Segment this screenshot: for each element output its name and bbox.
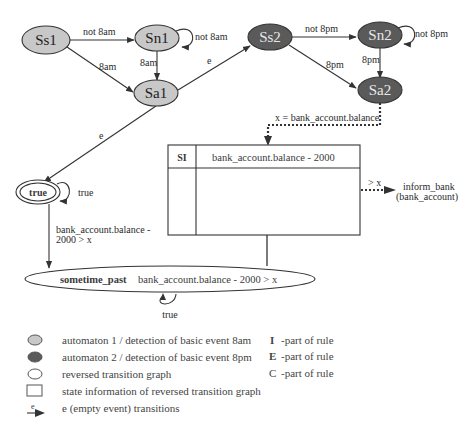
assignment-label: x = bank_account.balance xyxy=(275,112,380,123)
svg-text:automaton 1 / detection of bas: automaton 1 / detection of basic event 8… xyxy=(62,334,252,346)
legend-state-info-icon xyxy=(27,385,42,396)
svg-text:automaton 2 / detection of bas: automaton 2 / detection of basic event 8… xyxy=(62,351,252,363)
node-sometime-past: sometime_past bank_account.balance - 200… xyxy=(25,266,315,320)
edge-ss2-sa2 xyxy=(289,45,356,88)
edge-label-ss1-sa1: 8am xyxy=(99,61,116,72)
svg-text:e (empty event) transitions: e (empty event) transitions xyxy=(62,402,180,415)
legend-item-automaton2: automaton 2 / detection of basic event 8… xyxy=(28,351,252,363)
node-label-sn1: Sn1 xyxy=(145,30,168,46)
edge-label-ss2-sa2: 8pm xyxy=(326,59,344,70)
action-edge: > x inform_bank (bank_account) xyxy=(361,177,458,203)
node-ss1: Ss1 xyxy=(22,26,70,54)
past-node-condition: bank_account.balance - 2000 > x xyxy=(138,274,278,285)
legend-item-reversed: reversed transition graph xyxy=(28,368,172,380)
edge-label-sn2-sa2: 8pm xyxy=(362,54,380,65)
edge-label-sn1-self: not 8am xyxy=(195,31,228,42)
true-self-label: true xyxy=(78,187,94,198)
edge-sa1-ss2 xyxy=(178,46,250,90)
node-label-true: true xyxy=(29,187,47,198)
legend: automaton 1 / detection of basic event 8… xyxy=(27,334,334,417)
svg-text:C: C xyxy=(269,367,276,379)
legend-automaton1-icon xyxy=(28,335,42,345)
svg-text:-part of rule: -part of rule xyxy=(281,350,334,362)
legend-automaton2-icon xyxy=(28,352,42,362)
edge-label-sa1-true: e xyxy=(99,130,104,141)
svg-text:-part of rule: -part of rule xyxy=(281,367,334,379)
node-sn2: Sn2 xyxy=(358,22,402,48)
edge-label-sn1-sa1: 8am xyxy=(140,57,157,68)
node-label-ss2: Ss2 xyxy=(259,29,281,45)
state-info-box: SI bank_account.balance - 2000 xyxy=(168,145,360,235)
svg-text:E: E xyxy=(269,350,276,362)
node-sa1: Sa1 xyxy=(134,80,178,106)
automaton-diagram: not 8am not 8am 8am 8am not 8pm not 8pm … xyxy=(0,0,475,445)
svg-text:e: e xyxy=(31,402,35,411)
svg-text:state information of reversed: state information of reversed transition… xyxy=(62,385,261,397)
edge-label-sn2-self: not 8pm xyxy=(415,28,448,39)
node-label-ss1: Ss1 xyxy=(35,32,57,48)
past-self-label: true xyxy=(162,309,178,320)
rule-part-i: I -part of rule xyxy=(270,334,334,346)
svg-text:reversed transition graph: reversed transition graph xyxy=(62,368,172,380)
si-header-label: SI xyxy=(177,152,187,163)
rule-part-c: C -part of rule xyxy=(269,367,334,379)
node-ss2: Ss2 xyxy=(248,24,292,50)
past-node-name: sometime_past xyxy=(60,274,127,285)
edge-label-true-to-past-2: 2000 > x xyxy=(56,234,92,245)
action-line2: (bank_account) xyxy=(396,191,458,203)
edge-label-ss2-sn2: not 8pm xyxy=(305,23,338,34)
assignment-edge: x = bank_account.balance xyxy=(264,103,380,146)
node-sa2: Sa2 xyxy=(358,77,402,103)
edge-sa1-true xyxy=(44,106,156,182)
node-label-sa1: Sa1 xyxy=(145,85,168,101)
legend-item-epsilon: e e (empty event) transitions xyxy=(27,402,180,417)
diagram-canvas: not 8am not 8am 8am 8am not 8pm not 8pm … xyxy=(0,0,475,445)
edge-true-to-past: bank_account.balance - 2000 > x xyxy=(49,204,150,268)
node-true: true true xyxy=(16,180,94,204)
svg-text:-part of rule: -part of rule xyxy=(281,334,334,346)
edge-label-sa1-ss2: e xyxy=(207,55,212,66)
action-condition: > x xyxy=(368,177,381,188)
node-label-sn2: Sn2 xyxy=(368,27,391,43)
rule-part-e: E -part of rule xyxy=(269,350,334,362)
legend-item-state-info: state information of reversed transition… xyxy=(27,385,261,397)
legend-reversed-icon xyxy=(28,369,42,379)
si-header-value: bank_account.balance - 2000 xyxy=(212,152,335,163)
legend-item-automaton1: automaton 1 / detection of basic event 8… xyxy=(28,334,252,346)
edge-label-ss1-sn1: not 8am xyxy=(83,26,116,37)
node-label-sa2: Sa2 xyxy=(369,82,392,98)
svg-text:I: I xyxy=(270,334,274,346)
node-sn1: Sn1 xyxy=(135,25,179,51)
